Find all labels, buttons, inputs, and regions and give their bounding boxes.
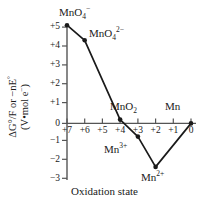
x-tick-label-plus4: +4 bbox=[113, 126, 127, 136]
point-label-manganate-base: MnO bbox=[89, 27, 112, 39]
y-axis-title-line2: (V•mol e−) bbox=[20, 41, 31, 173]
data-point-markers bbox=[65, 23, 194, 169]
data-point-mno4-2minus bbox=[82, 38, 87, 43]
frost-diagram-figure: +5 +4 +3 +2 +1 0 −1 −2 −3 +7 +6 +5 +4 +3… bbox=[0, 0, 209, 203]
y-tick-label-4: +4 bbox=[38, 41, 60, 51]
point-label-manganese-ii-sup: 2+ bbox=[156, 169, 164, 178]
point-label-permanganate-base: MnO bbox=[59, 6, 82, 18]
y-axis-title-minus-icon: − bbox=[17, 88, 25, 92]
point-label-permanganate-sup: − bbox=[86, 4, 90, 13]
y-tick-label-5: +5 bbox=[38, 22, 60, 32]
x-tick-label-plus5: +5 bbox=[95, 126, 109, 136]
point-label-manganese-dioxide-sub: 2 bbox=[133, 106, 137, 115]
y-axis-title: ΔG°/F or −nE° (V•mol e−) bbox=[8, 41, 30, 173]
x-axis-title: Oxidation state bbox=[0, 186, 209, 197]
y-tick-label-neg1: −1 bbox=[38, 136, 60, 146]
point-label-manganese-ii: Mn2+ bbox=[141, 172, 164, 183]
point-label-manganate-sup: 2− bbox=[116, 25, 124, 34]
x-tick-label-plus1: +1 bbox=[166, 126, 180, 136]
x-tick-label-plus3: +3 bbox=[131, 126, 145, 136]
point-label-manganese-dioxide-base: MnO bbox=[110, 100, 133, 112]
point-label-manganese-dioxide: MnO2 bbox=[110, 101, 137, 112]
y-tick-label-neg3: −3 bbox=[38, 174, 60, 184]
y-tick-label-1: +1 bbox=[38, 98, 60, 108]
point-label-manganate-sub: 4 bbox=[112, 33, 116, 42]
point-label-manganese-ii-base: Mn bbox=[141, 171, 156, 183]
x-tick-label-plus7: +7 bbox=[60, 126, 74, 136]
point-label-manganate: MnO42− bbox=[89, 28, 124, 39]
point-label-manganese-iii-sup: 3+ bbox=[119, 141, 127, 150]
point-label-manganese-iii: Mn3+ bbox=[104, 144, 127, 155]
y-tick-label-0: 0 bbox=[38, 119, 60, 129]
data-point-mno2 bbox=[118, 117, 123, 122]
y-axis-title-line2-end: ) bbox=[19, 84, 30, 88]
x-tick-label-plus2: +2 bbox=[149, 126, 163, 136]
point-label-permanganate: MnO4− bbox=[59, 7, 90, 18]
point-label-manganese-metal-base: Mn bbox=[165, 100, 180, 112]
x-tick-label-plus6: +6 bbox=[78, 126, 92, 136]
x-tick-label-0: 0 bbox=[184, 126, 198, 136]
point-label-permanganate-sub: 4 bbox=[82, 12, 86, 21]
y-axis-title-line2-text: (V•mol e bbox=[19, 92, 30, 130]
data-point-mno4-minus bbox=[65, 23, 70, 28]
point-label-manganese-metal: Mn bbox=[165, 101, 180, 112]
data-line-mn-frost bbox=[67, 25, 191, 167]
y-axis-ticks bbox=[62, 27, 67, 178]
point-label-manganese-iii-base: Mn bbox=[104, 143, 119, 155]
y-axis-title-degree-icon: ° bbox=[6, 76, 14, 79]
y-axis-title-line1: ΔG°/F or −nE° bbox=[7, 76, 18, 138]
y-tick-label-2: +2 bbox=[38, 79, 60, 89]
y-tick-label-3: +3 bbox=[38, 60, 60, 70]
x-axis-ticks bbox=[67, 118, 191, 123]
y-tick-label-neg2: −2 bbox=[38, 155, 60, 165]
